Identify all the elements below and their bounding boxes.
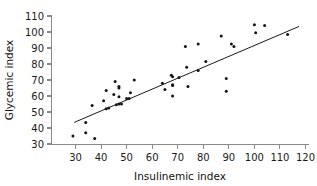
data-point [171, 84, 174, 87]
scatter-plot-figure: 30405060708090100110 3040506070809010011… [0, 0, 317, 186]
data-point [91, 104, 94, 107]
y-ticks: 30405060708090100110 [25, 11, 52, 150]
data-point [230, 43, 233, 46]
data-point [105, 89, 108, 92]
y-tick-label: 50 [31, 107, 44, 118]
plot-canvas: 30405060708090100110 3040506070809010011… [0, 0, 317, 186]
data-point [225, 77, 228, 80]
data-point [84, 121, 87, 124]
data-point [171, 75, 174, 78]
x-tick-label: 100 [245, 152, 264, 163]
data-point [254, 31, 257, 34]
x-tick-label: 30 [69, 152, 82, 163]
x-tick-label: 70 [171, 152, 184, 163]
data-point [204, 60, 207, 63]
y-tick-label: 90 [31, 43, 44, 54]
data-point [133, 79, 136, 82]
regression-line-group [74, 26, 299, 122]
y-tick-label: 60 [31, 91, 44, 102]
data-point [253, 23, 256, 26]
y-tick-label: 30 [31, 139, 44, 150]
data-point [232, 45, 235, 48]
data-point [117, 87, 120, 90]
data-point [84, 131, 87, 134]
data-point [117, 95, 120, 98]
data-point [71, 135, 74, 138]
data-point [171, 95, 174, 98]
x-tick-label: 40 [95, 152, 108, 163]
data-point [93, 137, 96, 140]
y-tick-label: 110 [25, 11, 44, 22]
data-point [112, 93, 115, 96]
data-point [263, 24, 266, 27]
data-point [129, 91, 132, 94]
data-point [163, 88, 166, 91]
x-tick-label: 120 [296, 152, 315, 163]
data-points-group [71, 23, 289, 140]
y-axis-group: 30405060708090100110 [25, 11, 52, 150]
data-point [184, 45, 187, 48]
y-tick-label: 70 [31, 75, 44, 86]
x-tick-label: 80 [197, 152, 210, 163]
x-axis-group: 30405060708090100110120 [52, 145, 316, 164]
data-point [197, 43, 200, 46]
y-axis-title: Glycemic index [3, 40, 15, 120]
x-ticks: 30405060708090100110120 [69, 145, 315, 164]
x-axis-title: Insulinemic index [134, 170, 226, 182]
data-point [186, 85, 189, 88]
data-point [286, 33, 289, 36]
x-tick-label: 110 [270, 152, 289, 163]
x-tick-label: 60 [146, 152, 159, 163]
y-tick-label: 80 [31, 59, 44, 70]
y-tick-label: 40 [31, 123, 44, 134]
data-point [114, 80, 117, 83]
data-point [225, 90, 228, 93]
data-point [185, 66, 188, 69]
data-point [220, 35, 223, 38]
y-tick-label: 100 [25, 27, 44, 38]
data-point [102, 99, 105, 102]
x-tick-label: 50 [120, 152, 133, 163]
x-tick-label: 90 [222, 152, 235, 163]
regression-line [74, 26, 299, 122]
